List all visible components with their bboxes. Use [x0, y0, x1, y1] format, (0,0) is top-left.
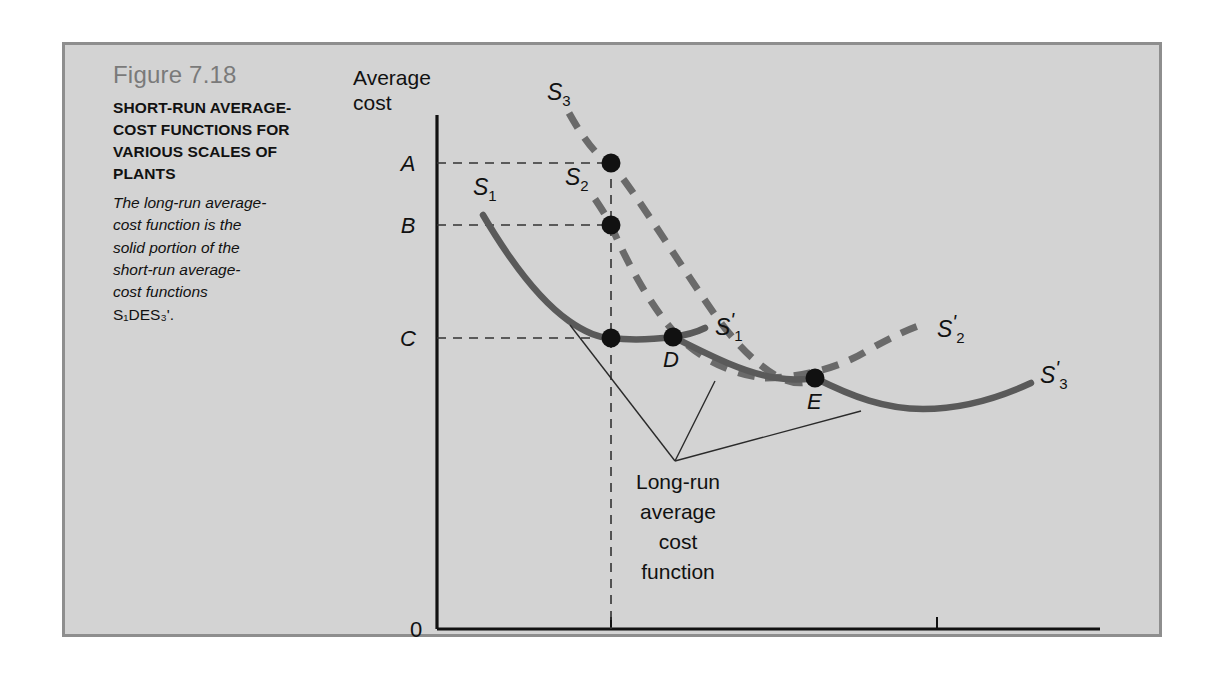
curve-label-s1: S1 — [473, 174, 497, 204]
origin-label: 0 — [410, 617, 422, 640]
curve-label-s3: S3 — [547, 79, 571, 109]
tick-label-c: C — [400, 326, 416, 351]
point-label-d: D — [663, 347, 679, 372]
annotation-line-3: cost — [659, 530, 698, 553]
leader-line-right — [675, 411, 861, 461]
tick-label-b: B — [401, 213, 416, 238]
curve-label-s3-prime: S'3 — [1040, 357, 1068, 392]
x-axis-label: Quantity of output — [1065, 637, 1165, 640]
point-e — [806, 369, 825, 388]
point-label-e: E — [807, 389, 822, 414]
cost-curve-chart: Average cost 0 Quantity of output A B C … — [65, 45, 1165, 640]
annotation-line-4: function — [641, 560, 715, 583]
point-d — [664, 328, 683, 347]
curve-label-s2-prime: S'2 — [937, 311, 965, 346]
y-axis-label-line-1: Average — [353, 66, 431, 89]
annotation-line-2: average — [640, 500, 716, 523]
point-a — [602, 154, 621, 173]
curve-label-s1-prime: S'1 — [715, 309, 743, 344]
point-c — [602, 329, 621, 348]
tick-label-r: R — [929, 638, 945, 640]
curve-label-s2: S2 — [565, 164, 589, 194]
y-axis-label-line-2: cost — [353, 91, 392, 114]
curve-s2-prime — [765, 323, 927, 378]
tick-label-q: Q — [602, 638, 619, 640]
leader-line-left — [570, 325, 675, 461]
point-b — [602, 216, 621, 235]
curve-s2 — [595, 199, 765, 378]
curve-s1-prime — [611, 328, 705, 340]
tick-label-a: A — [399, 151, 416, 176]
figure-panel: Figure 7.18 SHORT-RUN AVERAGE-COST FUNCT… — [62, 42, 1162, 637]
curve-s1 — [483, 215, 611, 338]
annotation-line-1: Long-run — [636, 470, 720, 493]
leader-line-middle — [675, 381, 715, 461]
curve-s3-prime — [815, 378, 1031, 409]
